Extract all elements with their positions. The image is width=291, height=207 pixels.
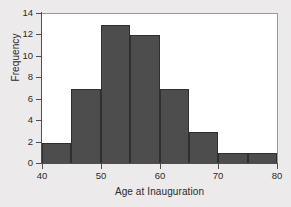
histogram-bar — [71, 89, 100, 164]
y-tick-label: 4 — [0, 115, 33, 125]
x-tick-label: 50 — [81, 171, 121, 181]
y-tick-mark — [36, 99, 41, 100]
y-tick-mark — [36, 163, 41, 164]
y-tick-label: 8 — [0, 72, 33, 82]
x-tick-mark — [218, 164, 219, 169]
histogram-chart: Frequency 02468101214 4050607080 Age at … — [0, 0, 291, 207]
histogram-bar — [101, 25, 130, 164]
y-axis-line — [41, 12, 42, 164]
histogram-bar — [160, 89, 189, 164]
x-tick-mark — [101, 164, 102, 169]
x-tick-label: 80 — [257, 171, 291, 181]
histogram-bar — [42, 143, 71, 164]
y-tick-label: 12 — [0, 29, 33, 39]
x-tick-label: 70 — [198, 171, 238, 181]
y-tick-mark — [36, 34, 41, 35]
y-tick-mark — [36, 77, 41, 78]
histogram-bar — [189, 132, 218, 164]
x-tick-mark — [277, 164, 278, 169]
histogram-bar — [130, 35, 159, 164]
y-tick-label: 10 — [0, 51, 33, 61]
y-tick-mark — [36, 13, 41, 14]
y-tick-mark — [36, 120, 41, 121]
x-tick-mark — [160, 164, 161, 169]
y-tick-label: 14 — [0, 8, 33, 18]
y-tick-label: 6 — [0, 94, 33, 104]
x-tick-label: 40 — [22, 171, 62, 181]
y-tick-label: 0 — [0, 158, 33, 168]
x-tick-mark — [42, 164, 43, 169]
plot-panel — [42, 13, 278, 164]
x-axis-title: Age at Inauguration — [42, 186, 277, 197]
x-tick-label: 60 — [140, 171, 180, 181]
y-tick-mark — [36, 142, 41, 143]
y-tick-label: 2 — [0, 137, 33, 147]
y-tick-mark — [36, 56, 41, 57]
